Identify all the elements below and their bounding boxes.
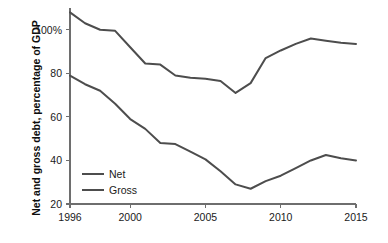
chart-legend: Net Gross (82, 168, 137, 196)
x-tick-label: 2015 (344, 211, 368, 223)
y-tick-label: 80 (50, 67, 62, 79)
x-tick-label: 2000 (119, 211, 143, 223)
x-tick-label: 1996 (58, 211, 82, 223)
chart-container: Net and gross debt, percentage of GDP 20… (0, 0, 388, 243)
series-lines (70, 12, 356, 188)
legend-label-net: Net (109, 168, 125, 180)
y-axis-title: Net and gross debt, percentage of GDP (30, 20, 42, 215)
y-axis-title-text: Net and gross debt, percentage of GDP (30, 20, 42, 215)
legend-label-gross: Gross (109, 184, 137, 196)
x-tick-label: 2005 (194, 211, 218, 223)
series-line-gross (70, 12, 356, 93)
y-tick-label: 40 (50, 154, 62, 166)
x-axis-ticks: 19962000200520102015 (58, 204, 368, 223)
line-chart: Net and gross debt, percentage of GDP 20… (0, 0, 388, 243)
y-tick-label: 20 (50, 198, 62, 210)
y-tick-label: 100% (35, 24, 62, 36)
x-tick-label: 2010 (269, 211, 293, 223)
y-tick-label: 60 (50, 111, 62, 123)
